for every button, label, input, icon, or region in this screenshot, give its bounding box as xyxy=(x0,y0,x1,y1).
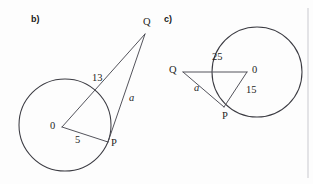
panel-c-segment-OP xyxy=(224,72,247,107)
panel-c-point-label-O: 0 xyxy=(252,65,257,76)
panel-b-measure-QP: a xyxy=(129,93,134,104)
panel-c-point-label-Q: Q xyxy=(169,65,177,76)
figure-page: b) c) 0 P Q 13 a 5 0 P xyxy=(0,0,313,184)
panel-b-point-label-O: 0 xyxy=(50,121,55,132)
panel-c-figure xyxy=(183,27,302,117)
panel-c-measure-QP: a xyxy=(194,83,199,94)
panel-b-circle xyxy=(19,79,111,171)
panel-b-point-label-Q: Q xyxy=(143,17,151,28)
panel-b-point-label-P: P xyxy=(111,138,117,149)
geometry-figures xyxy=(0,0,313,184)
panel-b-measure-OQ: 13 xyxy=(92,73,103,84)
panel-c-point-label-P: P xyxy=(222,111,228,122)
panel-c-measure-QO: 25 xyxy=(212,52,223,63)
panel-c-segment-QP xyxy=(183,72,224,107)
panel-b-figure xyxy=(19,34,145,171)
panel-c-measure-OP: 15 xyxy=(246,85,257,96)
panel-b-segment-OP xyxy=(62,127,108,142)
panel-b-measure-OP: 5 xyxy=(75,135,80,146)
panel-b-segment-QP xyxy=(108,34,145,142)
